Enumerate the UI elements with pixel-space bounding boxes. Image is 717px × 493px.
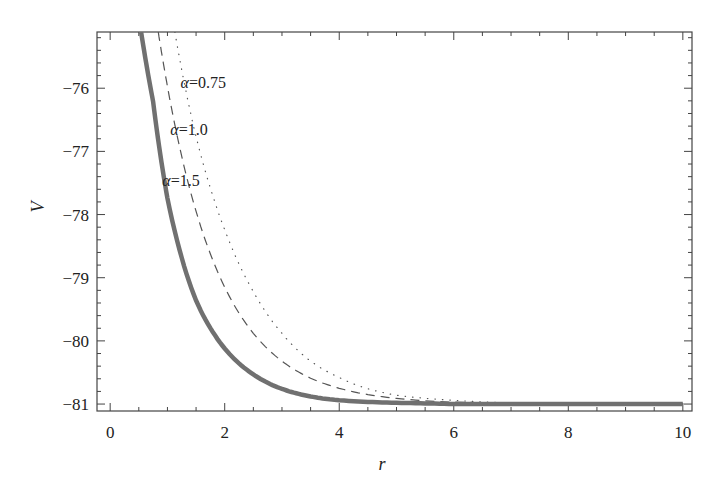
x-tick-label: 10 xyxy=(674,423,691,442)
series-line-dashed xyxy=(158,32,683,404)
y-tick-label: −77 xyxy=(62,142,89,161)
x-tick-label: 2 xyxy=(220,423,229,442)
y-axis-label: V xyxy=(28,200,48,213)
x-tick-label: 4 xyxy=(335,423,344,442)
curve-annotations: α=0.75α=1.0α=1.5 xyxy=(162,74,226,189)
x-tick-label: 6 xyxy=(450,423,459,442)
x-axis-label: r xyxy=(378,454,386,474)
x-tick-label: 8 xyxy=(564,423,573,442)
y-tick-label: −76 xyxy=(62,79,89,98)
series-line-dotted xyxy=(175,32,683,404)
curve-label: α=0.75 xyxy=(181,74,226,91)
curve-label: α=1.5 xyxy=(162,172,199,189)
chart-canvas: 0246810−81−80−79−78−77−76 α=0.75α=1.0α=1… xyxy=(0,0,717,493)
axis-ticks: 0246810−81−80−79−78−77−76 xyxy=(62,32,692,442)
y-tick-label: −78 xyxy=(62,206,89,225)
x-tick-label: 0 xyxy=(106,423,115,442)
y-tick-label: −80 xyxy=(62,332,89,351)
y-tick-label: −81 xyxy=(62,395,89,414)
y-tick-label: −79 xyxy=(62,269,89,288)
curve-label: α=1.0 xyxy=(170,121,207,138)
